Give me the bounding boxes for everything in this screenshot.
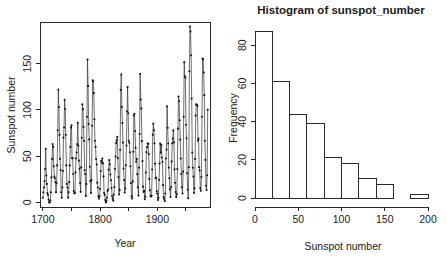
histogram-bar bbox=[307, 124, 324, 198]
histogram-plot: Histogram of sunspot_number 020406080050… bbox=[223, 0, 446, 259]
timeseries-data-point bbox=[96, 182, 98, 184]
timeseries-data-point bbox=[137, 186, 139, 188]
timeseries-data-point bbox=[72, 173, 74, 175]
timeseries-data-point bbox=[78, 168, 80, 170]
timeseries-data-point bbox=[94, 146, 96, 148]
timeseries-data-point bbox=[173, 141, 175, 143]
timeseries-data-point bbox=[104, 194, 106, 196]
timeseries-data-point bbox=[64, 99, 66, 101]
timeseries-data-point bbox=[138, 167, 140, 169]
timeseries-data-point bbox=[172, 138, 174, 140]
timeseries-data-point bbox=[186, 172, 188, 174]
timeseries-data-point bbox=[180, 173, 182, 175]
timeseries-data-point bbox=[68, 191, 70, 193]
timeseries-data-point bbox=[86, 116, 88, 118]
timeseries-data-point bbox=[74, 192, 76, 194]
timeseries-data-point bbox=[139, 133, 141, 135]
timeseries-data-point bbox=[185, 137, 187, 139]
timeseries-data-point bbox=[137, 195, 139, 197]
timeseries-data-point bbox=[181, 192, 183, 194]
timeseries-y-axis-title: Sunspot number bbox=[5, 76, 17, 154]
timeseries-data-point bbox=[200, 190, 202, 192]
timeseries-data-point bbox=[147, 143, 149, 145]
timeseries-data-point bbox=[117, 157, 119, 159]
timeseries-data-point bbox=[130, 182, 132, 184]
timeseries-data-point bbox=[111, 187, 113, 189]
timeseries-data-point bbox=[193, 192, 195, 194]
timeseries-data-point bbox=[122, 142, 124, 144]
timeseries-data-point bbox=[169, 188, 171, 190]
timeseries-data-point bbox=[158, 179, 160, 181]
timeseries-data-point bbox=[101, 157, 103, 159]
timeseries-data-point bbox=[168, 177, 170, 179]
timeseries-data-point bbox=[124, 191, 126, 193]
timeseries-data-point bbox=[61, 187, 63, 189]
timeseries-data-point bbox=[102, 175, 104, 177]
timeseries-data-point bbox=[88, 123, 90, 125]
timeseries-data-point bbox=[177, 128, 179, 130]
timeseries-data-point bbox=[109, 173, 111, 175]
timeseries-data-point bbox=[175, 196, 177, 198]
timeseries-data-point bbox=[62, 137, 64, 139]
timeseries-data-point bbox=[125, 144, 127, 146]
timeseries-data-point bbox=[42, 191, 44, 193]
timeseries-data-point bbox=[89, 166, 91, 168]
timeseries-data-point bbox=[116, 136, 118, 138]
timeseries-data-point bbox=[80, 191, 82, 193]
histogram-x-tick-label: 0 bbox=[252, 213, 258, 225]
timeseries-data-point bbox=[180, 157, 182, 159]
timeseries-data-point bbox=[181, 186, 183, 188]
timeseries-data-point bbox=[185, 124, 187, 126]
timeseries-data-point bbox=[66, 187, 68, 189]
timeseries-data-point bbox=[127, 86, 129, 88]
timeseries-data-point bbox=[157, 197, 159, 199]
timeseries-data-point bbox=[168, 167, 170, 169]
timeseries-data-point bbox=[87, 85, 89, 87]
timeseries-data-point bbox=[187, 197, 189, 199]
timeseries-data-point bbox=[128, 142, 130, 144]
timeseries-data-point bbox=[58, 106, 60, 108]
timeseries-data-point bbox=[141, 160, 143, 162]
timeseries-data-point bbox=[62, 170, 64, 172]
timeseries-data-point bbox=[45, 148, 47, 150]
timeseries-data-point bbox=[136, 158, 138, 160]
timeseries-data-point bbox=[51, 158, 53, 160]
timeseries-data-point bbox=[56, 164, 58, 166]
histogram-title: Histogram of sunspot_number bbox=[257, 4, 425, 16]
timeseries-data-point bbox=[111, 195, 113, 197]
timeseries-data-point bbox=[123, 167, 125, 169]
timeseries-data-point bbox=[135, 161, 137, 163]
timeseries-data-point bbox=[90, 192, 92, 194]
timeseries-data-point bbox=[97, 187, 99, 189]
timeseries-data-point bbox=[46, 192, 48, 194]
timeseries-data-point bbox=[116, 139, 118, 141]
timeseries-data-point bbox=[55, 191, 57, 193]
timeseries-data-point bbox=[75, 157, 77, 159]
timeseries-data-point bbox=[145, 151, 147, 153]
timeseries-y-tick-label: 100 bbox=[21, 101, 33, 119]
timeseries-data-point bbox=[156, 190, 158, 192]
timeseries-data-point bbox=[136, 173, 138, 175]
timeseries-data-point bbox=[112, 200, 114, 202]
timeseries-data-point bbox=[188, 166, 190, 168]
timeseries-data-point bbox=[44, 168, 46, 170]
timeseries-data-point bbox=[127, 112, 129, 114]
timeseries-data-point bbox=[107, 188, 109, 190]
timeseries-data-point bbox=[174, 182, 176, 184]
timeseries-data-point bbox=[197, 140, 199, 142]
timeseries-data-point bbox=[79, 182, 81, 184]
timeseries-data-point bbox=[199, 169, 201, 171]
timeseries-data-point bbox=[144, 196, 146, 198]
timeseries-x-tick-label: 1900 bbox=[146, 213, 170, 225]
timeseries-data-point bbox=[160, 152, 162, 154]
timeseries-data-point bbox=[57, 88, 59, 90]
timeseries-data-point bbox=[164, 200, 166, 202]
timeseries-data-point bbox=[203, 94, 205, 96]
timeseries-data-point bbox=[69, 164, 71, 166]
timeseries-data-point bbox=[65, 134, 67, 136]
timeseries-data-point bbox=[133, 115, 135, 117]
timeseries-data-point bbox=[126, 110, 128, 112]
histogram-bar bbox=[272, 82, 289, 198]
timeseries-data-point bbox=[203, 71, 205, 73]
timeseries-data-point bbox=[83, 140, 85, 142]
